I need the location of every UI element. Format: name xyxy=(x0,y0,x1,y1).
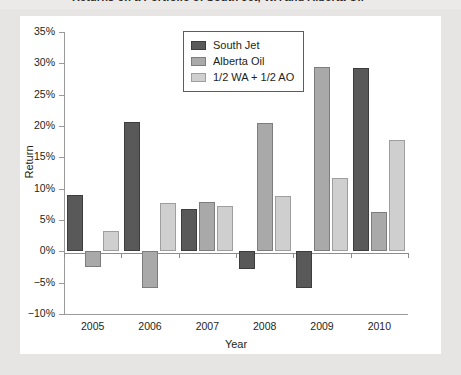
x-tick-label: 2008 xyxy=(235,320,295,332)
legend-label: Alberta Oil xyxy=(213,55,264,67)
x-tick-mark xyxy=(293,253,294,258)
legend-label: 1/2 WA + 1/2 AO xyxy=(213,71,294,83)
y-tick-label: −5% xyxy=(20,277,55,288)
bar xyxy=(257,123,273,251)
bar xyxy=(389,140,405,252)
x-tick-mark xyxy=(179,253,180,258)
legend-swatch-icon xyxy=(191,41,206,50)
x-tick-mark xyxy=(351,253,352,258)
legend-item: Alberta Oil xyxy=(191,53,294,69)
plot-area: 35%30%25%20%15%10%5%0%−5%−10% Return 200… xyxy=(20,16,441,354)
y-tick-label: 0% xyxy=(20,245,55,256)
bar xyxy=(142,251,158,287)
x-axis-line xyxy=(64,314,408,315)
bar xyxy=(199,202,215,251)
y-tick-mark xyxy=(59,32,64,33)
y-tick-mark xyxy=(59,220,64,221)
chart-title-text: Returns on a Portfolio of South Jet, WA … xyxy=(72,0,364,3)
y-tick-mark xyxy=(59,283,64,284)
legend-swatch-icon xyxy=(191,57,206,66)
bar xyxy=(181,209,197,251)
chart-legend: South JetAlberta Oil1/2 WA + 1/2 AO xyxy=(183,31,304,92)
y-tick-label: 5% xyxy=(20,214,55,225)
y-axis-title: Return xyxy=(23,127,35,197)
bar xyxy=(332,178,348,251)
legend-item: South Jet xyxy=(191,37,294,53)
y-axis-line xyxy=(64,32,65,314)
bar xyxy=(296,251,312,288)
bar xyxy=(275,196,291,251)
y-tick-label: 25% xyxy=(20,89,55,100)
y-tick-mark xyxy=(59,157,64,158)
bar xyxy=(85,251,101,267)
y-tick-label: 30% xyxy=(20,57,55,68)
y-tick-label: −10% xyxy=(20,308,55,319)
x-tick-label: 2007 xyxy=(177,320,237,332)
x-tick-label: 2010 xyxy=(349,320,409,332)
x-tick-mark xyxy=(236,253,237,258)
y-tick-mark xyxy=(59,189,64,190)
bar xyxy=(239,251,255,269)
cropped-title-strip: Returns on a Portfolio of South Jet, WA … xyxy=(0,0,461,9)
x-tick-mark xyxy=(121,253,122,258)
y-tick-mark xyxy=(59,95,64,96)
x-axis-title: Year xyxy=(64,338,408,350)
x-tick-label: 2009 xyxy=(292,320,352,332)
y-tick-mark xyxy=(59,63,64,64)
x-tick-label: 2006 xyxy=(120,320,180,332)
bar xyxy=(353,68,369,252)
x-tick-mark xyxy=(408,253,409,258)
bar xyxy=(124,122,140,252)
legend-item: 1/2 WA + 1/2 AO xyxy=(191,69,294,85)
x-tick-label: 2005 xyxy=(63,320,123,332)
bar xyxy=(314,67,330,251)
bar xyxy=(67,195,83,251)
y-tick-mark xyxy=(59,126,64,127)
bar xyxy=(160,203,176,251)
legend-swatch-icon xyxy=(191,73,206,82)
bar xyxy=(217,206,233,252)
x-tick-mark xyxy=(64,253,65,258)
bar xyxy=(103,231,119,252)
chart-panel: 35%30%25%20%15%10%5%0%−5%−10% Return 200… xyxy=(20,16,441,354)
bar xyxy=(371,212,387,251)
legend-label: South Jet xyxy=(213,39,259,51)
y-tick-label: 35% xyxy=(20,26,55,37)
